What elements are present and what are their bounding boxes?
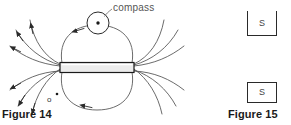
arrow-lower-left-1	[12, 83, 21, 88]
pole-box-bottom-label: S	[248, 87, 276, 97]
arrow-upper-left-3	[12, 48, 21, 53]
field-line-upper-right-3	[134, 46, 184, 66]
arrow-upper-left-2	[18, 33, 24, 41]
pole-box-top-label: S	[248, 18, 276, 28]
compass-needle-dot	[96, 21, 99, 24]
arrow-lower-left-2	[20, 95, 26, 104]
field-arrowheads-left	[12, 25, 35, 112]
field-line-lower-left-1	[10, 71, 60, 90]
compass-leader-line	[105, 9, 113, 17]
field-line-upper-right-1	[134, 20, 164, 64]
field-line-lower-left-2	[18, 70, 60, 106]
figure-15-caption: Figure 15	[228, 108, 278, 120]
compass-label: compass	[113, 2, 154, 13]
field-line-lower-right-2	[134, 70, 176, 106]
field-line-upper-left-1	[30, 20, 60, 64]
field-line-lower-right-1	[134, 71, 184, 90]
pole-box-bottom: S	[247, 82, 277, 103]
field-line-upper-left-3	[10, 46, 60, 66]
pole-box-top: S	[247, 11, 277, 36]
field-point-dot	[56, 93, 59, 96]
field-line-arrow-bottom	[82, 105, 92, 107]
point-marker-label: o	[47, 95, 51, 104]
figure-14-caption: Figure 14	[2, 108, 52, 120]
figure-scene: compass o Figure 14 S S Figure 15	[0, 0, 291, 125]
field-line-bottom-inner	[61, 72, 132, 110]
